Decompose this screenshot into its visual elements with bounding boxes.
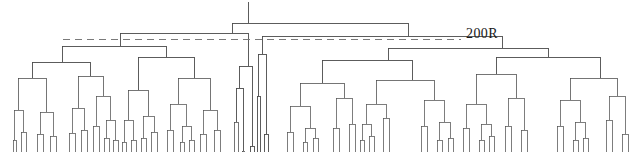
dendrogram-canvas: [0, 0, 637, 165]
dendrogram-figure: 200R: [0, 0, 637, 165]
tree-branches: [13, 23, 628, 152]
cut-line-label: 200R: [466, 27, 498, 41]
